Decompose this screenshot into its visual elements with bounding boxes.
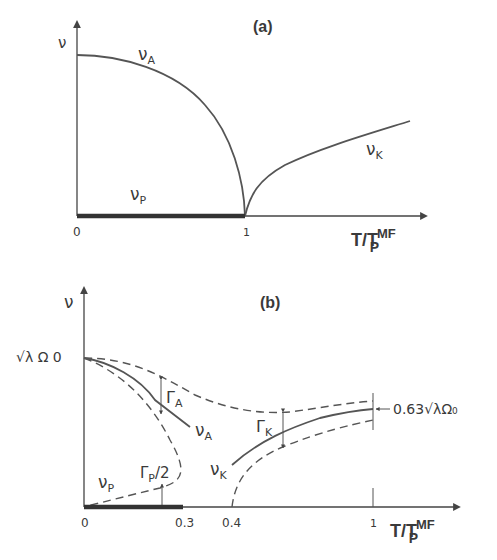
panel-a-nuA-label: νA [138, 44, 156, 67]
panel-b: (b) ν √λ Ω 0 νA ΓA ΓP/2 νP νK ΓK 0.63√λΩ [16, 290, 458, 546]
panel-b-tick-0-3: 0.3 [175, 516, 194, 530]
panel-a-nuP-label: νP [130, 184, 147, 207]
panel-b-limit-label: 0.63√λΩ₀ [393, 401, 458, 417]
panel-b-gammaA-label: ΓA [166, 388, 183, 410]
figure: (a) ν νA νK νP 0 1 T/TMFP (b) ν √λ Ω 0 ν… [0, 0, 497, 560]
panel-b-nuA-label: νA [195, 420, 213, 443]
panel-a-x-label: T/TMFP [351, 226, 396, 255]
panel-a-nuA-curve [77, 55, 245, 216]
panel-a-y-label: ν [58, 34, 66, 52]
panel-b-tick-1: 1 [370, 517, 377, 530]
panel-b-gammaP-label: ΓP/2 [140, 464, 170, 485]
panel-b-nuK-curve [232, 409, 373, 465]
panel-b-x-label: T/TMFP [390, 517, 435, 546]
panel-b-tick-0: 0 [81, 516, 89, 530]
panel-b-y-tick-label: √λ Ω 0 [16, 349, 62, 365]
panel-a: (a) ν νA νK νP 0 1 T/TMFP [58, 18, 424, 255]
panel-b-nuP-label: νP [98, 472, 115, 495]
panel-a-title: (a) [253, 18, 273, 35]
panel-a-nuK-label: νK [366, 139, 384, 162]
panel-b-nuK-label: νK [210, 459, 228, 482]
panel-a-tick-1: 1 [243, 226, 250, 239]
panel-a-tick-0: 0 [73, 225, 81, 239]
panel-b-title: (b) [260, 294, 280, 311]
panel-a-nuK-curve [245, 121, 410, 216]
panel-b-upper-dashed [84, 358, 373, 412]
panel-b-nuK-lower-dashed [232, 420, 373, 507]
panel-b-tick-0-4: 0.4 [222, 516, 241, 530]
panel-b-gammaK-label: ΓK [256, 417, 273, 439]
panel-b-y-label: ν [64, 292, 74, 312]
